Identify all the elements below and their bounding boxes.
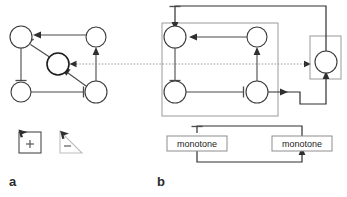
figure-canvas: a xyxy=(0,0,347,197)
monotone-block-left-label: monotone xyxy=(177,139,217,149)
node-top-right[interactable] xyxy=(86,27,106,47)
edge-top-right-to-top-left xyxy=(33,32,86,39)
node-top-left[interactable] xyxy=(10,26,32,48)
monotone-block-right-label: monotone xyxy=(282,139,322,149)
edge-bottom-left-to-bottom-right xyxy=(186,87,244,98)
panel-a: a xyxy=(9,26,107,189)
node-feedback[interactable] xyxy=(315,51,337,73)
node-top-left[interactable] xyxy=(164,26,186,48)
edge-top-left-to-bottom-left xyxy=(16,48,27,81)
edge-top-right-to-top-left xyxy=(189,34,247,41)
node-top-right[interactable] xyxy=(247,27,267,47)
dotted-separator-connector xyxy=(70,61,312,67)
node-bottom-left[interactable] xyxy=(164,81,186,103)
node-bottom-right[interactable] xyxy=(85,81,107,103)
node-bottom-left[interactable] xyxy=(11,82,31,102)
triangle-minus-cursor-icon[interactable] xyxy=(60,131,82,153)
edge-monotone-right-to-left xyxy=(192,126,303,136)
figure-root: a xyxy=(0,0,347,197)
panel-label-b: b xyxy=(157,174,165,189)
edge-bottom-left-to-bottom-right xyxy=(31,87,84,98)
square-plus-cursor-icon[interactable] xyxy=(19,130,42,154)
edge-feedback-to-top-left xyxy=(170,6,327,51)
edge-bottom-right-to-feedback xyxy=(268,71,329,104)
panel-label-a: a xyxy=(9,174,17,189)
node-center[interactable] xyxy=(47,53,69,75)
node-bottom-right[interactable] xyxy=(246,81,268,103)
panel-b: monotone monotone b xyxy=(157,6,341,189)
